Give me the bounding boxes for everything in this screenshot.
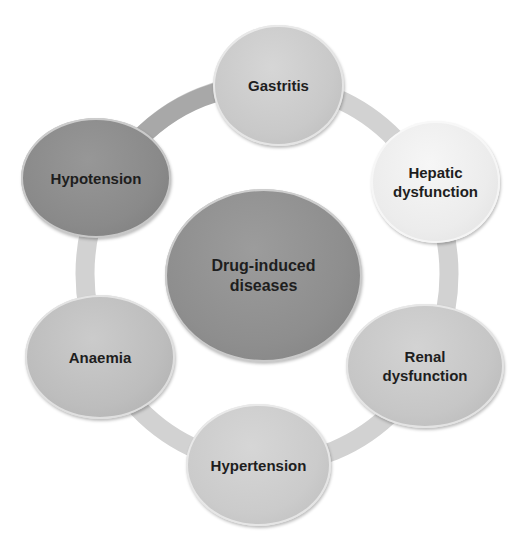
center-label: Drug-induced diseases — [212, 256, 316, 296]
node-center-drug-induced-diseases: Drug-induced diseases — [165, 189, 362, 362]
node-anaemia: Anaemia — [25, 295, 175, 419]
node-hypertension: Hypertension — [186, 404, 331, 526]
node-gastritis: Gastritis — [213, 25, 344, 146]
node-label: Hypertension — [211, 456, 307, 475]
node-renal-dysfunction: Renal dysfunction — [346, 304, 504, 428]
node-label: Gastritis — [248, 76, 309, 95]
node-hypotension: Hypotension — [21, 118, 171, 238]
node-label: Renal dysfunction — [383, 347, 468, 385]
node-hepatic-dysfunction: Hepatic dysfunction — [371, 121, 500, 243]
cycle-diagram: Gastritis Hepatic dysfunction Renal dysf… — [0, 0, 518, 542]
node-label: Anaemia — [69, 348, 132, 367]
node-label: Hypotension — [51, 169, 142, 188]
node-label: Hepatic dysfunction — [393, 163, 478, 201]
